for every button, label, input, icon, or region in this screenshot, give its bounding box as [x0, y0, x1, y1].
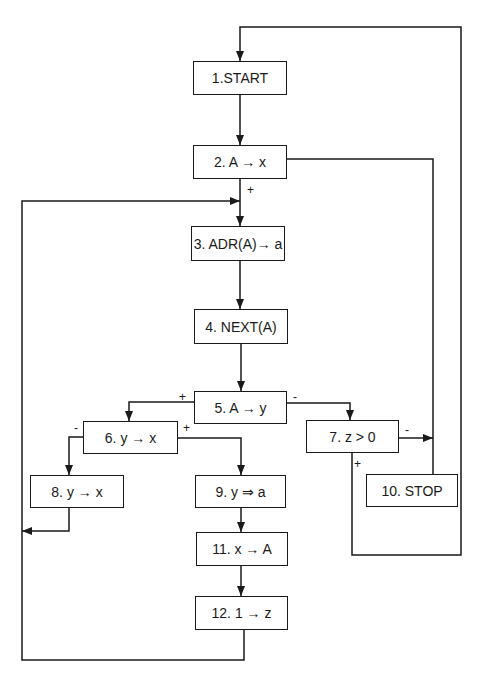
node-7: 7. z > 0 — [306, 420, 399, 453]
edge-label: + — [183, 422, 190, 434]
node-12: 12. 1 → z — [195, 596, 288, 630]
edge-label: - — [293, 391, 297, 403]
edge-label: - — [74, 422, 78, 434]
node-10: 10. STOP — [366, 474, 458, 507]
node-9: 9. y ⇒ a — [195, 475, 286, 508]
node-3: 3. ADR(A)→ a — [191, 226, 285, 261]
node-11: 11. x → A — [196, 532, 288, 566]
edge-label: + — [354, 458, 361, 470]
node-5: 5. A → y — [194, 391, 287, 424]
edge-5-to-7 — [287, 403, 350, 420]
edge-5-to-6 — [129, 402, 194, 421]
edge-label: + — [179, 391, 186, 403]
node-1: 1.START — [193, 61, 287, 95]
node-4: 4. NEXT(A) — [194, 309, 288, 344]
edge-6-to-8 — [69, 437, 83, 475]
edge-label: + — [247, 184, 254, 196]
edge-label: - — [405, 424, 409, 436]
node-8: 8. y → x — [30, 475, 124, 508]
node-6: 6. y → x — [83, 421, 178, 454]
edge-8-to-loop — [22, 508, 69, 531]
node-2: 2. A → x — [193, 145, 287, 179]
edge-6-to-9 — [178, 438, 241, 475]
